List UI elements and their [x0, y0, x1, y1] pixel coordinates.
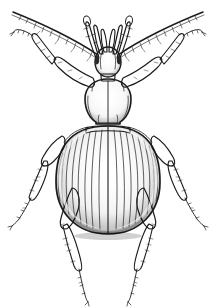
beetle-dorsal-view-drawing	[0, 0, 216, 308]
beetle-illustration-figure	[0, 0, 216, 308]
contact-shadow	[74, 232, 142, 240]
elytra-group	[56, 126, 160, 234]
pronotum-group	[85, 79, 131, 124]
